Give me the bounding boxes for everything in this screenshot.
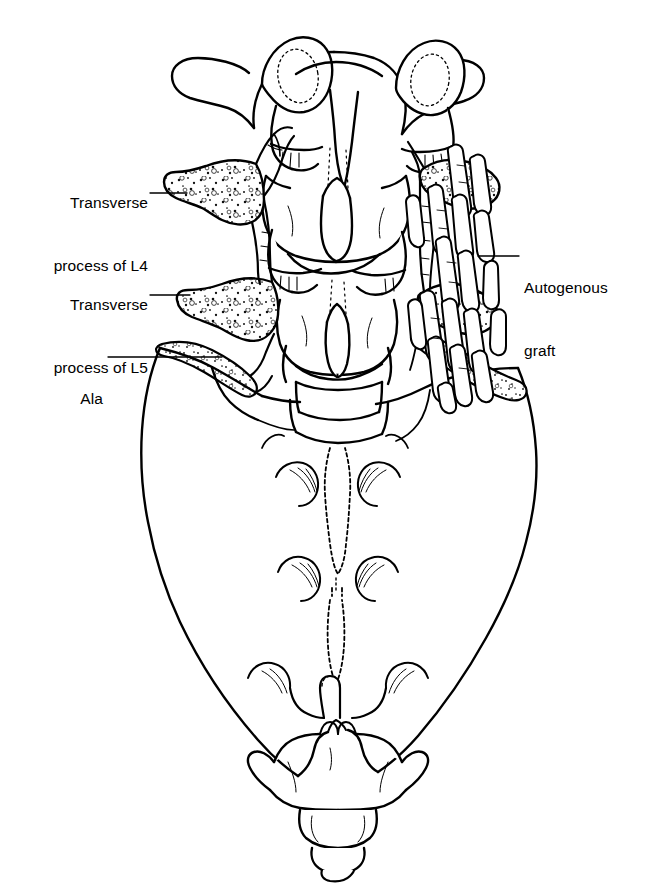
label-line-1: Transverse: [48, 192, 148, 213]
medical-illustration: Transverse process of L4 Transverse proc…: [0, 0, 652, 891]
label-ala: Ala: [8, 346, 103, 451]
label-line-2: graft: [524, 340, 648, 361]
coccyx: [248, 722, 428, 881]
label-autogenous-graft: Autogenous graft: [524, 235, 648, 403]
vertebra-l4: [262, 148, 409, 295]
label-line-1: Autogenous: [524, 277, 648, 298]
autogenous-graft-region: [406, 142, 527, 413]
label-line-1: Ala: [8, 388, 103, 409]
vertebra-l5: [277, 280, 397, 420]
sacral-ala-graft-bed: [156, 334, 274, 397]
label-line-1: Transverse: [48, 294, 148, 315]
sacrum: [141, 348, 536, 776]
